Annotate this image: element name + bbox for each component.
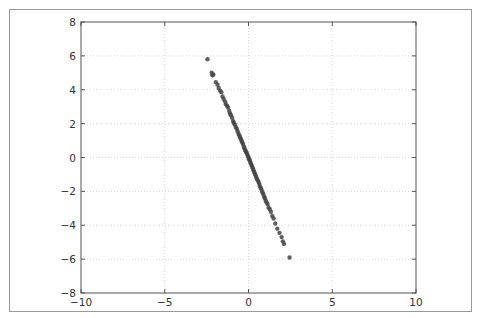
data-point bbox=[271, 216, 275, 220]
y-tick-label: −4 bbox=[61, 219, 77, 231]
x-tick-label: 5 bbox=[329, 296, 336, 308]
scatter-chart: −10−50510−8−6−4−202468 bbox=[0, 0, 480, 318]
y-tick-label: 0 bbox=[69, 152, 76, 164]
data-point bbox=[287, 255, 291, 259]
y-tick-label: −8 bbox=[61, 287, 76, 299]
data-point bbox=[275, 226, 279, 230]
data-point bbox=[277, 231, 281, 235]
y-tick-label: −6 bbox=[61, 253, 77, 265]
y-tick-label: 4 bbox=[69, 84, 76, 96]
data-point bbox=[211, 72, 215, 76]
x-tick-label: 0 bbox=[245, 296, 252, 308]
x-tick-label: 10 bbox=[409, 296, 422, 308]
y-tick-label: 2 bbox=[69, 118, 76, 130]
data-point bbox=[205, 57, 209, 61]
data-point bbox=[219, 90, 223, 94]
y-tick-label: 6 bbox=[69, 50, 76, 62]
axis-ticks: −10−50510−8−6−4−202468 bbox=[61, 16, 423, 308]
y-tick-label: −2 bbox=[61, 185, 76, 197]
data-point bbox=[269, 210, 273, 214]
data-point bbox=[279, 235, 283, 239]
y-tick-label: 8 bbox=[69, 16, 76, 28]
data-point bbox=[273, 221, 277, 225]
x-tick-label: −5 bbox=[157, 296, 172, 308]
data-point bbox=[282, 242, 286, 246]
